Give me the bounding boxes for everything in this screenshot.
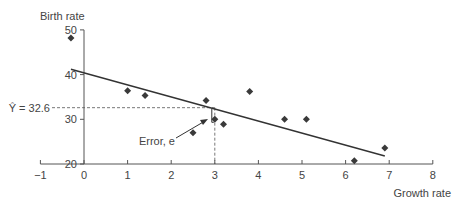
x-tick-label: 6 — [343, 169, 349, 181]
x-tick-label: 5 — [299, 169, 305, 181]
data-point — [211, 116, 218, 123]
x-tick-label: 7 — [386, 169, 392, 181]
data-point — [203, 97, 210, 104]
data-point — [281, 116, 288, 123]
x-tick-label: 3 — [212, 169, 218, 181]
x-tick-label: 8 — [430, 169, 436, 181]
data-point — [246, 88, 253, 95]
axis-ticks: −101234567820304050 — [34, 24, 436, 181]
error-label: Error, e — [139, 135, 175, 147]
data-point — [351, 157, 358, 164]
yhat-label: Ŷ = 32.6 — [9, 102, 50, 114]
y-tick-label: 20 — [65, 158, 77, 170]
annotations: Ŷ = 32.6Error, e — [9, 102, 215, 164]
x-tick-label: −1 — [34, 169, 47, 181]
y-axis-label: Birth rate — [40, 10, 85, 22]
scatter-chart: −101234567820304050 Ŷ = 32.6Error, e Bir… — [0, 0, 454, 206]
regression-line — [71, 69, 385, 156]
data-point — [124, 87, 131, 94]
x-tick-label: 2 — [168, 169, 174, 181]
data-point — [381, 144, 388, 151]
axes — [40, 30, 432, 164]
data-points — [67, 34, 388, 164]
error-arrow-head — [200, 119, 208, 125]
data-point — [142, 92, 149, 99]
y-tick-label: 50 — [65, 24, 77, 36]
x-axis-label: Growth rate — [394, 187, 451, 199]
data-point — [220, 121, 227, 128]
data-point — [303, 116, 310, 123]
error-arrow — [176, 121, 205, 138]
y-tick-label: 30 — [65, 113, 77, 125]
x-tick-label: 1 — [125, 169, 131, 181]
x-tick-label: 4 — [255, 169, 261, 181]
regression-line-path — [71, 69, 385, 156]
data-point — [190, 129, 197, 136]
x-tick-label: 0 — [81, 169, 87, 181]
